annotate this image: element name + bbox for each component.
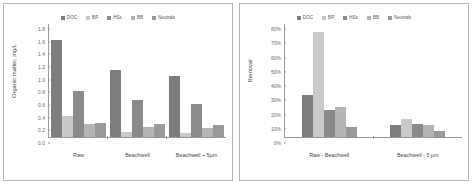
y-axis-tick-label: 50% (271, 69, 284, 74)
legend-item-hss: HSs (343, 16, 358, 21)
y-axis-tick-label: 1.0 (38, 77, 48, 82)
legend-item-hss: HSs (107, 16, 122, 21)
y-axis-tick-mark (284, 86, 286, 87)
y-axis-title-right-text: Removal (247, 60, 253, 83)
y-axis-tick-label: 1.6 (38, 39, 48, 44)
legend-swatch-icon (107, 16, 111, 20)
y-axis-tick: 1.6 (38, 39, 48, 44)
bar-neutrals (213, 125, 224, 137)
legend-label: HSs (349, 16, 358, 21)
y-axis-tick-mark (284, 71, 286, 72)
y-axis-tick: 30% (271, 98, 284, 103)
legend-label: BB (137, 16, 143, 21)
figure-stage: DOCBPHSsBBNeutrals Organic matter, mg/L … (0, 0, 476, 184)
y-axis-tick-label: 0.2 (38, 128, 48, 133)
bar-bp (121, 132, 132, 137)
bar-hss (412, 124, 423, 137)
bar-bb (423, 125, 434, 137)
legend-swatch-icon (152, 16, 156, 20)
y-axis-tick-label: 40% (271, 84, 284, 89)
y-axis-tick-label: 30% (271, 98, 284, 103)
bar-bp (313, 32, 324, 137)
legend-label: Neutrals (394, 16, 411, 21)
bar-groups-left (49, 24, 226, 137)
legend-swatch-icon (131, 16, 135, 20)
y-axis-tick-mark (48, 41, 50, 42)
legend-item-bb: BB (131, 16, 143, 21)
bar-hss (191, 104, 202, 137)
x-axis-label: Raw - Beachwell (285, 152, 374, 158)
y-axis-tick-label: 70% (271, 41, 284, 46)
bar-hss (324, 110, 335, 137)
y-axis-tick-mark (48, 54, 50, 55)
legend-swatch-icon (297, 16, 301, 20)
bar-groups-right (285, 24, 462, 137)
legend-item-bp: BP (322, 16, 334, 21)
legend-swatch-icon (388, 16, 392, 20)
legend-swatch-icon (343, 16, 347, 20)
bar-bb (84, 124, 95, 137)
y-axis-tick-label: 0.8 (38, 90, 48, 95)
x-axis-line-left (48, 137, 226, 138)
legend-item-doc: DOC (297, 16, 313, 21)
legend-right: DOCBPHSsBBNeutrals (240, 13, 468, 23)
y-axis-tick-label: 0.0 (38, 141, 48, 146)
x-axis-label: Beachwell (108, 152, 167, 158)
y-axis-tick-mark (48, 92, 50, 93)
y-axis-tick-mark (284, 43, 286, 44)
y-axis-tick-mark (284, 143, 286, 144)
y-axis-tick-label: 0% (274, 141, 284, 146)
y-axis-tick: 0.2 (38, 128, 48, 133)
y-axis-tick: 0% (274, 141, 284, 146)
y-axis-tick-label: 1.8 (38, 27, 48, 32)
y-axis-tick: 40% (271, 84, 284, 89)
x-axis-label: Beachwell - 5 µm (374, 152, 463, 158)
y-axis-tick: 0.8 (38, 90, 48, 95)
legend-left: DOCBPHSsBBNeutrals (4, 13, 232, 23)
y-axis-tick-mark (48, 79, 50, 80)
y-axis-title-left: Organic matter, mg/L (8, 4, 20, 138)
y-axis-tick: 60% (271, 55, 284, 60)
y-axis-tick: 0.6 (38, 102, 48, 107)
y-axis-tick: 10% (271, 126, 284, 131)
x-axis-label: Raw (49, 152, 108, 158)
legend-label: BB (373, 16, 379, 21)
legend-swatch-icon (367, 16, 371, 20)
y-axis-tick-mark (284, 100, 286, 101)
bar-group (167, 24, 226, 137)
y-axis-tick-mark (284, 29, 286, 30)
legend-item-neutrals: Neutrals (152, 16, 175, 21)
legend-label: Neutrals (158, 16, 175, 21)
y-axis-tick-label: 10% (271, 126, 284, 131)
legend-label: BP (92, 16, 98, 21)
bar-bp (401, 119, 412, 137)
bar-bb (335, 107, 346, 137)
bar-doc (390, 125, 401, 137)
legend-label: DOC (67, 16, 77, 21)
bar-group (108, 24, 167, 137)
bar-neutrals (154, 124, 165, 137)
y-axis-tick-label: 0.4 (38, 115, 48, 120)
y-axis-tick-mark (284, 128, 286, 129)
y-axis-tick: 20% (271, 112, 284, 117)
y-axis-tick-mark (284, 57, 286, 58)
y-axis-tick-mark (48, 29, 50, 30)
y-axis-tick: 1.0 (38, 77, 48, 82)
y-axis-tick-mark (48, 130, 50, 131)
legend-item-neutrals: Neutrals (388, 16, 411, 21)
bar-neutrals (95, 123, 106, 137)
y-axis-tick: 50% (271, 69, 284, 74)
legend-item-bb: BB (367, 16, 379, 21)
bar-doc (110, 70, 121, 137)
y-axis-tick-mark (48, 143, 50, 144)
y-axis-tick: 0.4 (38, 115, 48, 120)
bar-doc (169, 76, 180, 137)
y-axis-tick: 1.4 (38, 52, 48, 57)
bar-hss (132, 100, 143, 137)
bar-neutrals (434, 131, 445, 137)
y-axis-tick-label: 60% (271, 55, 284, 60)
legend-swatch-icon (86, 16, 90, 20)
legend-item-bp: BP (86, 16, 98, 21)
y-axis-tick-mark (48, 117, 50, 118)
y-axis-tick-mark (284, 114, 286, 115)
